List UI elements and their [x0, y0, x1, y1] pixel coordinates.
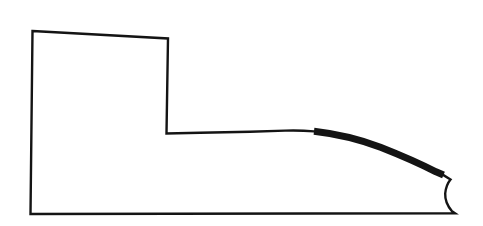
- drawing-canvas: [0, 0, 483, 226]
- line-drawing-svg: [0, 0, 483, 226]
